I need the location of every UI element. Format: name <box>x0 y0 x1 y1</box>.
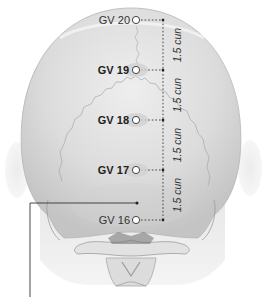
cun-label-4: 1.5 cun <box>171 170 183 220</box>
label-gv16: GV 16 <box>70 214 130 226</box>
gv16-marker-icon <box>132 216 139 223</box>
label-gv18: GV 18 <box>69 114 129 126</box>
cun-label-3: 1.5 cun <box>171 120 183 170</box>
cun-label-1: 1.5 cun <box>171 20 183 70</box>
cun-label-2: 1.5 cun <box>171 70 183 120</box>
label-gv20: GV 20 <box>70 14 130 26</box>
gv20-marker-icon <box>132 16 139 23</box>
right-ear <box>238 140 262 196</box>
skull-illustration <box>0 0 262 297</box>
gv17-marker-icon <box>132 166 139 173</box>
gv18-marker-icon <box>132 116 139 123</box>
label-gv19: GV 19 <box>69 64 129 76</box>
label-gv17: GV 17 <box>69 164 129 176</box>
gv19-marker-icon <box>132 66 139 73</box>
